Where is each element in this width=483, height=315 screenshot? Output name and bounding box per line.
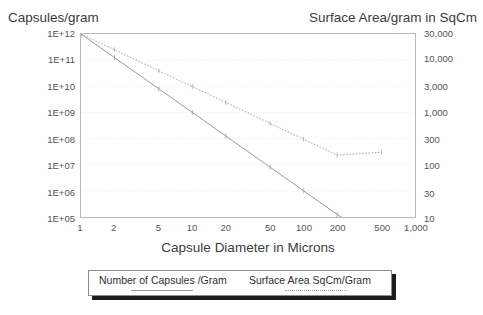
- tick-label: 30,000: [424, 28, 453, 39]
- tick-label: 200: [330, 222, 346, 233]
- series-line: [81, 34, 381, 155]
- series-line: [81, 34, 381, 217]
- legend-swatch-surface-area: [285, 290, 347, 291]
- tick-label: 5: [156, 222, 161, 233]
- right-axis-title: Surface Area/gram in SqCm: [309, 10, 477, 25]
- tick-label: 30: [424, 187, 435, 198]
- legend: Number of Capsules /Gram Surface Area Sq…: [88, 270, 392, 296]
- tick-label: 1,000: [424, 106, 448, 117]
- tick-label: 1,000: [404, 222, 428, 233]
- tick-label: 1E+09: [18, 107, 75, 118]
- right-axis-ticks: 30,00010,0003,0001,0003001003010: [424, 33, 479, 218]
- left-axis-title: Capsules/gram: [8, 10, 99, 25]
- tick-label: 100: [424, 159, 440, 170]
- chart-page: Capsules/gram Surface Area/gram in SqCm …: [0, 0, 483, 315]
- plot-area: [80, 33, 416, 218]
- tick-label: 500: [374, 222, 390, 233]
- tick-label: 1E+10: [18, 80, 75, 91]
- tick-label: 20: [220, 222, 231, 233]
- tick-label: 1E+08: [18, 133, 75, 144]
- tick-label: 3,000: [424, 81, 448, 92]
- x-axis-title: Capsule Diameter in Microns: [80, 240, 416, 255]
- tick-label: 2: [111, 222, 116, 233]
- tick-label: 1E+11: [18, 54, 75, 65]
- tick-label: 1E+12: [18, 28, 75, 39]
- tick-label: 1: [77, 222, 82, 233]
- tick-label: 10,000: [424, 53, 453, 64]
- legend-label-surface-area: Surface Area SqCm/Gram: [249, 274, 371, 286]
- x-axis-ticks: 1251020501002005001,000: [80, 222, 416, 236]
- tick-label: 300: [424, 134, 440, 145]
- tick-label: 1E+05: [18, 213, 75, 224]
- tick-label: 50: [265, 222, 276, 233]
- tick-label: 10: [187, 222, 198, 233]
- legend-swatch-capsules: [131, 290, 193, 291]
- series-lines: [81, 34, 415, 217]
- tick-label: 1E+06: [18, 186, 75, 197]
- tick-label: 100: [296, 222, 312, 233]
- left-axis-ticks: 1E+121E+111E+101E+091E+081E+071E+061E+05: [18, 33, 75, 218]
- legend-label-capsules: Number of Capsules /Gram: [99, 274, 227, 286]
- tick-label: 1E+07: [18, 160, 75, 171]
